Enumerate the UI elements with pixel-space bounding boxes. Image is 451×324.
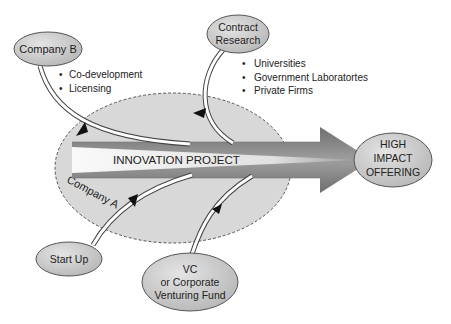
bullet-icon: • [242,58,246,69]
node-company-b: Company B [14,32,82,66]
target-line-3: OFFERING [366,166,420,178]
bullet-item: Universities [254,58,306,69]
innovation-diagram: Company A INNOVATION PROJECT Company B C [0,0,451,324]
bullet-icon: • [242,72,246,83]
bullet-icon: • [59,69,63,80]
node-vc-fund-line-3: Venturing Fund [154,289,225,301]
bullet-icon: • [59,83,63,94]
node-contract-research-line-2: Research [216,34,261,46]
contract-research-bullets: • Universities • Government Laboratortes… [242,58,368,96]
bullet-item: Co-development [69,69,143,80]
node-contract-research: Contract Research [207,15,269,53]
target-line-1: HIGH [380,138,406,150]
target-line-2: IMPACT [374,152,413,164]
bullet-item: Licensing [69,83,111,94]
node-company-b-label: Company B [19,43,76,55]
node-vc-fund-line-2: or Corporate [161,276,220,288]
node-start-up-label: Start Up [50,253,89,265]
company-b-bullets: • Co-development • Licensing [59,69,143,94]
bullet-item: Private Firms [254,85,313,96]
node-vc-fund-line-1: VC [183,263,198,275]
node-high-impact-offering: HIGH IMPACT OFFERING [354,133,432,187]
innovation-project-label: INNOVATION PROJECT [113,154,240,166]
node-contract-research-line-1: Contract [218,21,258,33]
bullet-icon: • [242,85,246,96]
node-start-up: Start Up [36,242,102,276]
bullet-item: Government Laboratortes [254,72,368,83]
node-vc-fund: VC or Corporate Venturing Fund [142,253,238,311]
